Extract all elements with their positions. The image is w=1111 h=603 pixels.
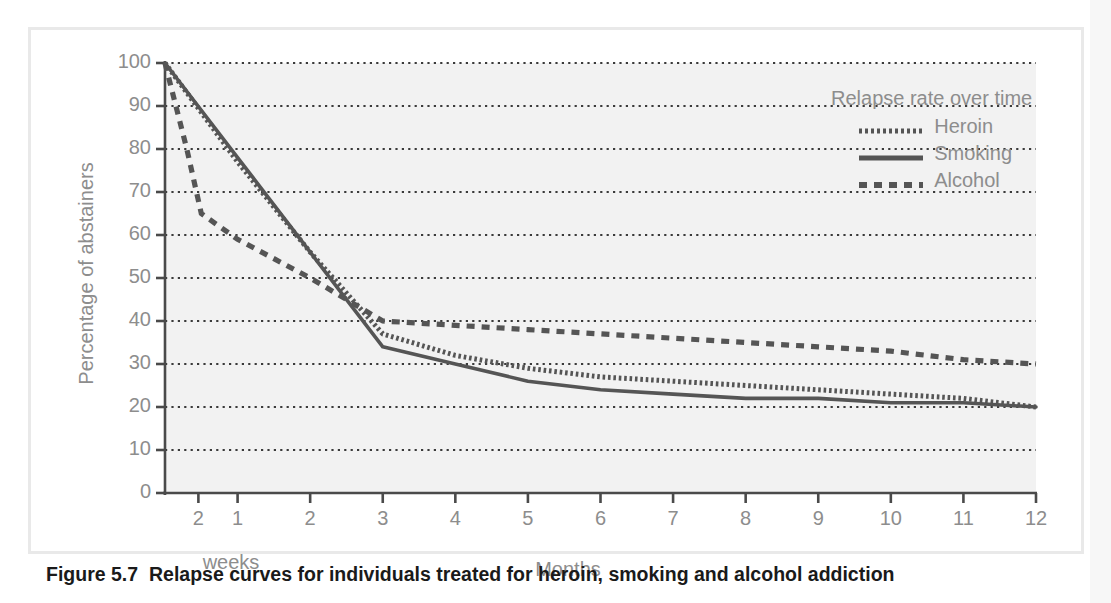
figure-caption-text: Relapse curves for individuals treated f… [149,563,895,585]
legend-item: Smoking [831,140,1032,167]
y-tick-label: 100 [107,50,151,73]
y-tick-label: 40 [107,308,151,331]
y-tick-label: 90 [107,93,151,116]
legend-item: Heroin [831,113,1032,140]
x-tick-label: 12 [1016,507,1056,530]
x-tick-label: 1 [218,507,258,530]
y-tick-label: 70 [107,179,151,202]
chart-legend: Relapse rate over time HeroinSmokingAlco… [831,87,1032,194]
y-axis-ticks [156,63,165,493]
legend-label: Alcohol [934,169,1032,192]
figure-frame: 1009080706050403020100 2123456789101112 … [28,27,1084,554]
y-tick-label: 20 [107,394,151,417]
y-tick-label: 0 [107,480,151,503]
x-tick-label: 3 [363,507,403,530]
x-tick-label: 6 [581,507,621,530]
x-tick-label: 9 [798,507,838,530]
figure-caption-label: Figure 5.7 [46,563,138,585]
x-axis-ticks [198,493,1036,503]
y-tick-label: 80 [107,136,151,159]
y-tick-label: 30 [107,351,151,374]
x-tick-label: 7 [653,507,693,530]
figure-page: 1009080706050403020100 2123456789101112 … [0,0,1111,603]
x-tick-label: 10 [871,507,911,530]
y-tick-label: 60 [107,222,151,245]
figure-caption: Figure 5.7 Relapse curves for individual… [46,563,894,586]
page-right-edge-shade [1090,0,1111,603]
legend-rows: HeroinSmokingAlcohol [831,113,1032,194]
legend-swatch-alcohol [858,174,924,188]
legend-label: Heroin [934,115,1032,138]
x-tick-label: 8 [726,507,766,530]
x-tick-label: 4 [435,507,475,530]
legend-swatch-heroin [858,120,924,134]
y-tick-label: 50 [107,265,151,288]
legend-swatch-smoking [858,147,924,161]
x-tick-label: 11 [943,507,983,530]
legend-label: Smoking [934,142,1032,165]
x-tick-label: 2 [290,507,330,530]
y-tick-label: 10 [107,437,151,460]
legend-title: Relapse rate over time [831,87,1032,110]
y-axis-label: Percentage of abstainers [75,159,98,389]
x-tick-label: 2 [178,507,218,530]
legend-item: Alcohol [831,167,1032,194]
x-tick-label: 5 [508,507,548,530]
